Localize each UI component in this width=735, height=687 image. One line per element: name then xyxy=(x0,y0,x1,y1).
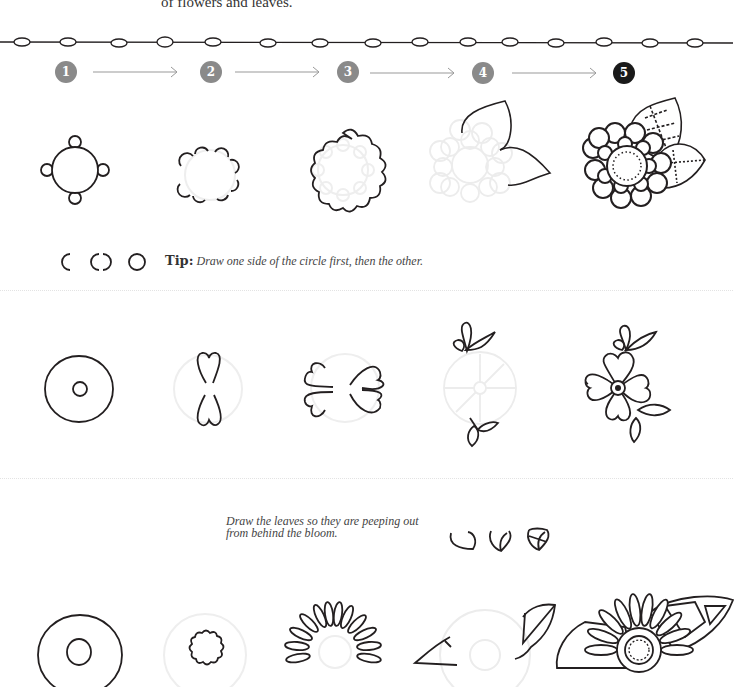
step-3-marker: 3 xyxy=(337,61,359,83)
step-1-marker: 1 xyxy=(55,61,77,83)
row3-step2-scallop-center-icon xyxy=(160,607,250,687)
leaf-step1-icon xyxy=(448,527,478,551)
row1-step2-scallop-start-icon xyxy=(175,140,245,210)
row1-step5-final-flower-icon xyxy=(575,98,710,213)
row2-step5-final-flower-icon xyxy=(578,320,678,450)
row3-step5-final-daisy-icon xyxy=(555,592,735,672)
row1-step3-scallop-ring-icon xyxy=(298,125,388,215)
arrow-icon xyxy=(512,67,602,79)
arrow-icon xyxy=(235,66,325,78)
row1-step1-circle-bumps-icon xyxy=(38,135,118,205)
leaf-step3-icon xyxy=(525,526,553,552)
intro-text: of flowers and leaves. xyxy=(161,0,293,11)
vine-border xyxy=(0,33,733,53)
section-divider xyxy=(0,478,733,479)
arrow-icon xyxy=(370,67,460,79)
circle-half-left-icon xyxy=(60,252,74,272)
tip-label: Tip: xyxy=(165,253,194,268)
step-2-marker: 2 xyxy=(200,61,222,83)
tip-body: Draw one side of the circle first, then … xyxy=(197,254,424,268)
leaves-note: Draw the leaves so they are peeping out … xyxy=(226,515,441,539)
section-divider xyxy=(0,290,733,291)
circle-two-halves-icon xyxy=(90,252,112,272)
row3-step1-ring-icon xyxy=(35,607,125,687)
row2-step2-two-petals-icon xyxy=(168,350,248,430)
row3-step4-daisy-leaves-icon xyxy=(405,595,565,675)
row2-step1-ring-icon xyxy=(40,350,120,430)
arrow-icon xyxy=(93,66,183,78)
leaf-step2-icon xyxy=(487,527,515,553)
row2-step4-flower-sprigs-icon xyxy=(440,318,550,448)
row2-step3-four-petals-icon xyxy=(300,350,390,430)
row1-step4-flower-leaves-icon xyxy=(430,95,570,205)
row3-step3-daisy-petals-icon xyxy=(285,600,385,680)
step-4-marker: 4 xyxy=(472,62,494,84)
step-5-marker: 5 xyxy=(613,62,635,84)
circle-complete-icon xyxy=(126,251,148,273)
tip-text: Tip: Draw one side of the circle first, … xyxy=(165,253,423,269)
